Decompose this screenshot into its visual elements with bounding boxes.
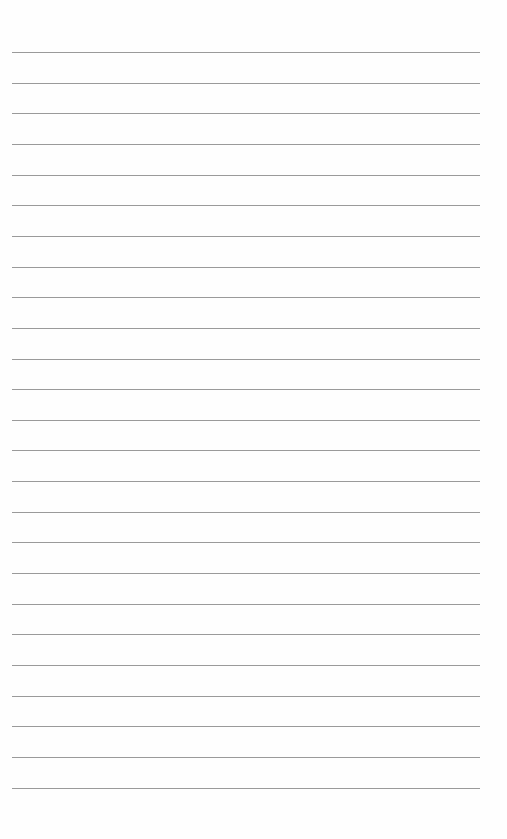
ruled-line [12,420,480,421]
ruled-line [12,696,480,697]
ruled-line [12,542,480,543]
ruled-line [12,634,480,635]
ruled-line [12,205,480,206]
ruled-line [12,328,480,329]
ruled-line [12,113,480,114]
ruled-line [12,297,480,298]
ruled-line [12,450,480,451]
ruled-line [12,604,480,605]
lined-paper-page [0,0,507,839]
ruled-line [12,83,480,84]
ruled-line [12,52,480,53]
ruled-line [12,175,480,176]
ruled-line [12,757,480,758]
ruled-line [12,389,480,390]
ruled-line [12,267,480,268]
ruled-line [12,236,480,237]
ruled-line [12,359,480,360]
ruled-line [12,512,480,513]
ruled-line [12,665,480,666]
ruled-line [12,573,480,574]
ruled-line [12,481,480,482]
ruled-line [12,144,480,145]
ruled-line [12,726,480,727]
ruled-line [12,788,480,789]
